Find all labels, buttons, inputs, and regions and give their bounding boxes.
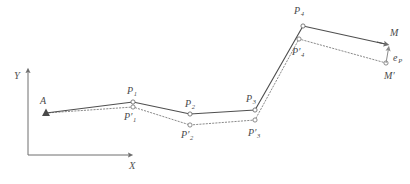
point-label-p4-base: P	[294, 5, 300, 16]
point-label-p3-base: P	[246, 93, 252, 104]
point-label-p4: P4	[294, 6, 304, 16]
point-label-p1-prime-sub: 1	[133, 116, 136, 123]
point-label-m-prime-base: M	[384, 70, 393, 81]
measured-polyline-end-arrow	[377, 42, 387, 45]
deviation-label-ep: eP	[393, 53, 402, 63]
polyline-diagram-svg	[0, 0, 410, 184]
y-axis-label: Y	[14, 71, 20, 82]
point-label-p1-base: P	[127, 85, 133, 96]
vertex-marker-p3	[253, 108, 257, 112]
figure-canvas: Y X A P1 P2 P3 P4 M P′1 P′2 P′3 P′4 M′ e…	[0, 0, 410, 184]
vertex-marker-p4	[301, 24, 305, 28]
point-label-p1-sub: 1	[134, 90, 137, 97]
axis-group	[28, 70, 131, 155]
measured-polyline-group	[42, 24, 387, 116]
point-label-a-base: A	[40, 95, 46, 106]
point-label-p3-prime-sub: 3	[257, 132, 260, 139]
deviation-label-ep-sub: P	[398, 57, 402, 64]
vertex-marker-p4-prime	[297, 37, 301, 41]
deviation-label-ep-base: e	[393, 52, 398, 63]
point-label-p4-prime: P′4	[292, 47, 304, 57]
vertex-marker-p3-prime	[253, 118, 257, 122]
vertex-marker-p1-prime	[131, 105, 135, 109]
point-label-p1-prime: P′1	[124, 112, 136, 122]
deviation-vector-group	[386, 48, 389, 63]
point-label-m-prime: M′	[384, 71, 395, 81]
point-label-p3: P3	[246, 94, 256, 104]
vertex-marker-p2	[188, 112, 192, 116]
point-label-p3-prime: P′3	[248, 128, 260, 138]
measured-polyline	[46, 26, 385, 114]
point-label-p2-base: P	[185, 98, 191, 109]
point-label-m-base: M	[390, 27, 399, 38]
point-label-a: A	[40, 96, 46, 106]
vertex-marker-p2-prime	[188, 123, 192, 127]
point-label-p1: P1	[127, 86, 137, 96]
point-label-p4-sub: 4	[301, 10, 304, 17]
point-label-p2-prime: P′2	[181, 130, 193, 140]
point-label-m: M	[390, 28, 399, 38]
deviation-vector-ep	[386, 48, 389, 63]
point-label-p2-prime-sub: 2	[190, 134, 193, 141]
point-label-p2-sub: 2	[192, 103, 195, 110]
x-axis-label: X	[129, 161, 136, 172]
point-label-p4-prime-sub: 4	[301, 51, 304, 58]
point-label-p3-sub: 3	[253, 98, 256, 105]
vertex-marker-p1	[131, 100, 135, 104]
prime-mark: ′	[393, 70, 395, 81]
offset-polyline-group	[46, 37, 388, 127]
point-label-p2: P2	[185, 99, 195, 109]
